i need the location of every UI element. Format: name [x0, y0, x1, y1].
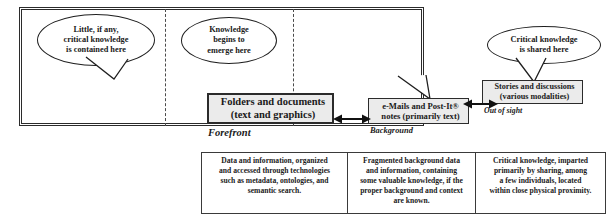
- balloon-line: is shared here: [510, 45, 577, 55]
- table-cell-data-information: Data and information, organized and acce…: [202, 153, 348, 213]
- cell-line: Data and information, organized: [207, 156, 342, 166]
- node-folders-and-documents: Folders and documents (text and graphics…: [207, 93, 334, 124]
- speech-balloon-knowledge-begins-to-emerge: Knowledge begins to emerge here Critical…: [181, 17, 277, 64]
- cell-line: Fragmented background data: [353, 156, 470, 166]
- cell-line: and information, containing: [353, 166, 470, 176]
- table-cell-critical-knowledge: Critical knowledge, imparted primarily b…: [476, 153, 605, 213]
- node-line: Stories and discussions: [487, 82, 582, 92]
- cell-line: a few individuals, located: [481, 176, 600, 186]
- description-table: Data and information, organized and acce…: [201, 152, 606, 214]
- balloon-tail-icon: [84, 55, 144, 81]
- cell-line: some valuable knowledge, if the: [353, 176, 470, 186]
- cell-line: Critical knowledge, imparted: [481, 156, 600, 166]
- cell-line: semantic search.: [207, 186, 342, 196]
- balloon-line: Little, if any,: [64, 25, 129, 35]
- caption-forefront: Forefront: [208, 127, 251, 140]
- node-line: notes (primarily text): [373, 111, 468, 121]
- table-cell-fragmented-background: Fragmented background data and informati…: [348, 153, 476, 213]
- cell-line: within close physical proximity.: [481, 186, 600, 196]
- balloon-line: emerge here: [207, 46, 250, 56]
- node-emails-and-postit-notes: e-Mails and Post-It® notes (primarily te…: [368, 98, 469, 124]
- balloon-line: is contained here: [64, 45, 129, 55]
- balloon-line: Knowledge: [207, 25, 250, 35]
- balloon-line: Critical knowledge: [510, 35, 577, 45]
- double-arrow-icon: [463, 97, 498, 111]
- balloon-line: begins to: [207, 35, 250, 45]
- cell-line: primarily by sharing, among: [481, 166, 600, 176]
- cell-line: such as metadata, ontologies, and: [207, 176, 342, 186]
- node-line: (text and graphics): [214, 109, 332, 121]
- double-arrow-icon: [333, 112, 371, 126]
- cell-line: proper background and context: [353, 186, 470, 196]
- cell-line: and accessed through technologies: [207, 166, 342, 176]
- dashed-divider-1: [165, 9, 166, 126]
- node-line: e-Mails and Post-It®: [373, 101, 468, 111]
- node-line: (various modalities): [487, 92, 582, 102]
- cell-line: are known.: [353, 196, 470, 206]
- caption-background: Background: [370, 126, 413, 136]
- balloon-tail-icon: [396, 73, 444, 101]
- balloon-line: critical knowledge: [64, 35, 129, 45]
- node-line: Folders and documents: [214, 96, 332, 108]
